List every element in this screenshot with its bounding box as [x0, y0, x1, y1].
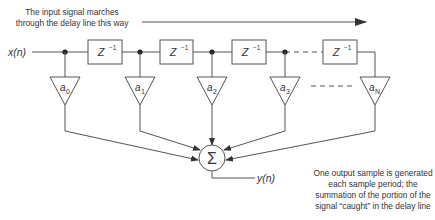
delay-block-3: Z −1: [232, 40, 266, 64]
svg-text:−1: −1: [181, 44, 189, 51]
svg-text:2: 2: [213, 88, 217, 95]
svg-text:−1: −1: [109, 44, 117, 51]
coefficient-a2: a 2: [197, 77, 227, 105]
fir-filter-diagram: The input signal marches through the del…: [0, 0, 435, 220]
annotation-top-line1: The input signal marches: [25, 7, 119, 17]
output-annotation: One output sample is generated each samp…: [313, 168, 433, 211]
annotation-bottom-line3: summation of the portion of the: [315, 190, 431, 200]
svg-text:0: 0: [66, 88, 70, 95]
svg-text:N: N: [375, 88, 380, 95]
sigma-icon: Σ: [207, 150, 217, 167]
summation-node: Σ: [199, 145, 225, 171]
svg-text:−1: −1: [344, 44, 352, 51]
coefficient-a1: a 1: [125, 77, 155, 105]
svg-text:Z: Z: [241, 46, 250, 58]
svg-text:Z: Z: [169, 46, 178, 58]
input-label-x-n: x(n): [7, 46, 26, 58]
coefficient-a0: a 0: [50, 77, 80, 105]
annotation-bottom-line2: each sample period; the: [328, 179, 418, 189]
annotation-top-line2: through the delay line this way: [16, 18, 129, 28]
output-line: [212, 171, 255, 178]
coefficient-aN: a N: [360, 77, 390, 105]
annotation-bottom-line1: One output sample is generated: [313, 168, 433, 178]
annotation-bottom-line4: signal “caught” in the delay line: [315, 201, 431, 211]
svg-text:−1: −1: [253, 44, 261, 51]
delay-block-n: Z −1: [323, 40, 357, 64]
svg-text:Z: Z: [332, 46, 341, 58]
direction-annotation: The input signal marches through the del…: [16, 7, 366, 28]
coefficient-a3: a 3: [270, 77, 300, 105]
svg-text:Z: Z: [97, 46, 106, 58]
delay-block-2: Z −1: [160, 40, 193, 64]
svg-text:1: 1: [141, 88, 145, 95]
output-label-y-n: y(n): [256, 172, 275, 184]
svg-text:3: 3: [286, 88, 290, 95]
delay-block-1: Z −1: [88, 40, 122, 64]
